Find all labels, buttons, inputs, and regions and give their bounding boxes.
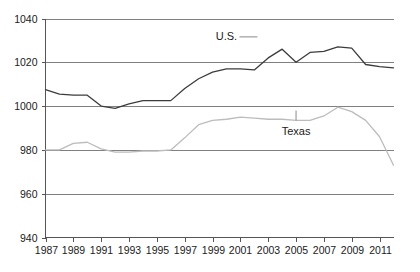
x-tick-label-1989: 1989 <box>62 244 86 256</box>
x-tick-label-1999: 1999 <box>202 244 226 256</box>
y-tick-label-1000: 1000 <box>14 100 38 112</box>
series-label-us: U.S. <box>216 30 237 42</box>
x-tick-label-2003: 2003 <box>257 244 281 256</box>
x-tick-label-2009: 2009 <box>341 244 365 256</box>
y-tick-label-980: 980 <box>20 144 38 156</box>
x-tick-label-1993: 1993 <box>118 244 142 256</box>
x-tick-label-1995: 1995 <box>146 244 170 256</box>
x-tick-label-1991: 1991 <box>90 244 114 256</box>
x-tick-label-2005: 2005 <box>285 244 309 256</box>
chart-canvas: 9409609801000102010401987198919911993199… <box>0 0 420 272</box>
y-tick-label-960: 960 <box>20 188 38 200</box>
x-tick-label-2007: 2007 <box>313 244 337 256</box>
x-tick-label-1987: 1987 <box>35 244 59 256</box>
line-chart: 9409609801000102010401987198919911993199… <box>0 0 420 272</box>
series-line-texas <box>46 107 394 165</box>
series-line-us <box>46 47 394 108</box>
series-label-texas: Texas <box>282 125 311 137</box>
y-tick-label-1040: 1040 <box>14 13 38 25</box>
y-tick-label-1020: 1020 <box>14 56 38 68</box>
y-tick-label-940: 940 <box>20 232 38 244</box>
x-tick-label-2001: 2001 <box>229 244 253 256</box>
x-tick-label-2011: 2011 <box>369 244 392 256</box>
x-tick-label-1997: 1997 <box>174 244 198 256</box>
